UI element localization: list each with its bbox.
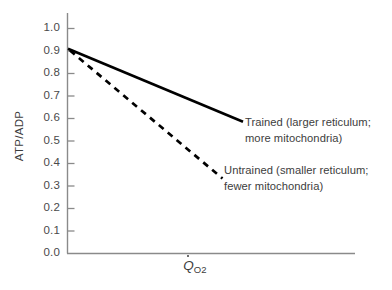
y-axis-ticks xyxy=(68,29,75,232)
annotation-trained: Trained (larger reticulum; more mitochon… xyxy=(245,115,371,147)
annotation-trained-line2: more mitochondria) xyxy=(245,131,371,147)
y-tick-label-0p3: 0.3 xyxy=(30,180,60,192)
chart-figure: 1.0 0.9 0.8 0.7 0.6 0.5 0.4 0.3 0.2 0.1 … xyxy=(0,0,392,290)
x-axis-title-symbol: Q xyxy=(183,258,194,273)
y-tick-label-0p8: 0.8 xyxy=(30,67,60,79)
y-tick-label-0p6: 0.6 xyxy=(30,112,60,124)
y-tick-label-0p4: 0.4 xyxy=(30,157,60,169)
x-axis-title: QO2 xyxy=(150,258,240,275)
series-line-trained xyxy=(68,49,243,122)
series-line-untrained xyxy=(70,51,223,179)
annotation-untrained-line1: Untrained (smaller reticulum; xyxy=(224,163,368,179)
annotation-untrained-line2: fewer mitochondria) xyxy=(224,179,368,195)
y-tick-label-0p7: 0.7 xyxy=(30,90,60,102)
y-tick-label-0p9: 0.9 xyxy=(30,45,60,57)
annotation-untrained: Untrained (smaller reticulum; fewer mito… xyxy=(224,163,368,195)
y-tick-label-0p0: 0.0 xyxy=(30,247,60,259)
y-tick-label-0p1: 0.1 xyxy=(30,225,60,237)
y-tick-label-0p5: 0.5 xyxy=(30,135,60,147)
x-axis-title-subscript-number: 2 xyxy=(201,264,206,275)
y-tick-label-0p2: 0.2 xyxy=(30,202,60,214)
annotation-trained-line1: Trained (larger reticulum; xyxy=(245,115,371,131)
y-tick-label-1p0: 1.0 xyxy=(30,22,60,34)
y-axis-title: ATP/ADP xyxy=(13,91,25,181)
